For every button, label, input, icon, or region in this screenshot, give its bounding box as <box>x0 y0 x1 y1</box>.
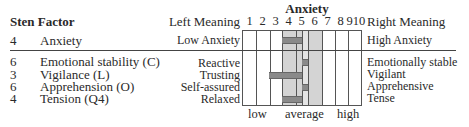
sten-factor-header: Sten Factor <box>10 14 75 30</box>
band-average-label: average <box>285 107 324 122</box>
score-bar-anxiety <box>282 37 302 44</box>
grid-bottom-border <box>242 105 362 106</box>
left-meaning-header: Left Meaning <box>161 14 240 30</box>
score-bar-tension <box>282 96 302 103</box>
tick-10: 10 <box>352 14 366 29</box>
sten-value: 4 <box>10 91 17 107</box>
right-meaning: Tense <box>367 91 395 106</box>
right-meaning: High Anxiety <box>367 33 432 48</box>
right-meaning-header: Right Meaning <box>367 14 445 30</box>
grid-line <box>335 30 336 105</box>
tick-6: 6 <box>308 14 321 29</box>
grid-line <box>308 30 309 105</box>
tick-4: 4 <box>282 14 295 29</box>
section-divider <box>10 50 456 51</box>
grid-line <box>256 30 257 105</box>
tick-2: 2 <box>256 14 269 29</box>
score-bar-emotional-stability <box>302 59 308 66</box>
left-meaning: Low Anxiety <box>120 33 240 48</box>
grid-top-border <box>242 30 362 31</box>
factor-name: Anxiety <box>40 33 82 49</box>
grid-line <box>348 30 349 105</box>
grid-line <box>270 30 271 105</box>
grid-line <box>322 30 323 105</box>
score-bar-apprehension <box>302 84 308 91</box>
tick-5: 5 <box>295 14 308 29</box>
tick-3: 3 <box>269 14 282 29</box>
tick-7: 7 <box>321 14 334 29</box>
grid-line <box>302 30 303 105</box>
factor-name: Tension (Q4) <box>40 91 109 107</box>
band-low-label: low <box>248 107 267 122</box>
left-meaning: Relaxed <box>120 92 240 107</box>
band-high-label: high <box>337 107 359 122</box>
tick-1: 1 <box>243 14 256 29</box>
score-bar-vigilance <box>269 72 302 79</box>
grid-line <box>242 30 243 105</box>
grid-line <box>361 30 362 105</box>
sten-value: 4 <box>10 33 17 49</box>
